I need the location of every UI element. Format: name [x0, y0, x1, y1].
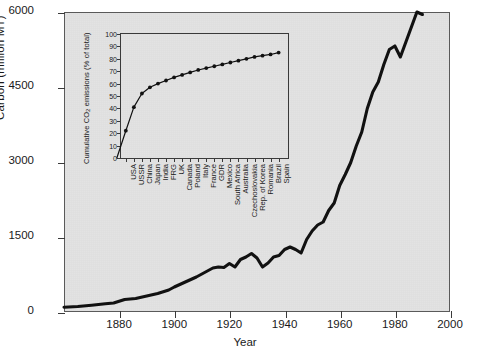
inset-x-tick-mark — [279, 158, 280, 162]
inset-x-tick-mark — [247, 158, 248, 162]
x-tick-mark — [175, 311, 176, 318]
inset-x-tick-mark — [166, 158, 167, 162]
y-tick-label: 6000 — [8, 4, 34, 16]
y-axis-title: Carbon (million MT) — [0, 15, 6, 120]
data-point-marker — [261, 54, 265, 58]
main-plot-area: Cumulative CO2 emissions (% of total) 01… — [64, 12, 450, 312]
inset-y-tick-label: 60 — [109, 80, 117, 87]
inset-y-tick-label: 30 — [109, 117, 117, 124]
inset-y-tick-label: 90 — [109, 43, 117, 50]
inset-plot-area: Cumulative CO2 emissions (% of total) 01… — [120, 33, 289, 159]
x-tick-label: 1940 — [272, 318, 298, 330]
data-point-marker — [188, 71, 192, 75]
data-point-marker — [164, 79, 168, 83]
inset-x-tick-mark — [126, 158, 127, 162]
data-point-marker — [172, 76, 176, 80]
data-point-marker — [148, 85, 152, 89]
inset-y-tick-mark — [117, 158, 121, 159]
inset-x-tick-mark — [214, 158, 215, 162]
data-point-marker — [245, 57, 249, 61]
data-point-marker — [132, 105, 136, 109]
x-tick-label: 1980 — [382, 318, 408, 330]
data-point-marker — [253, 55, 257, 59]
x-tick-label: 1880 — [106, 318, 132, 330]
x-tick-mark — [120, 311, 121, 318]
data-point-marker — [212, 64, 216, 68]
y-tick-label: 0 — [28, 304, 34, 316]
inset-x-tick-mark — [238, 158, 239, 162]
y-tick-mark — [58, 238, 65, 239]
x-tick-mark — [230, 311, 231, 318]
y-tick-label: 4500 — [8, 79, 34, 91]
inset-x-tick-mark — [206, 158, 207, 162]
inset-x-tick-mark — [158, 158, 159, 162]
x-tick-mark — [451, 311, 452, 318]
inset-x-tick-mark — [142, 158, 143, 162]
y-tick-mark — [58, 163, 65, 164]
inset-x-tick-mark — [222, 158, 223, 162]
inset-x-tick-mark — [271, 158, 272, 162]
inset-y-tick-label: 70 — [109, 68, 117, 75]
inset-x-tick-mark — [198, 158, 199, 162]
inset-country-label: Spain — [282, 164, 291, 183]
x-tick-label: 1900 — [162, 318, 188, 330]
y-tick-label: 3000 — [8, 154, 34, 166]
data-point-marker — [204, 66, 208, 70]
data-point-marker — [269, 53, 273, 57]
inset-line-chart — [121, 34, 288, 158]
x-tick-label: 1960 — [327, 318, 353, 330]
x-tick-mark — [341, 311, 342, 318]
inset-y-tick-label: 20 — [109, 130, 117, 137]
data-point-marker — [196, 68, 200, 72]
x-tick-label: 2000 — [437, 318, 463, 330]
inset-y-tick-label: 100 — [105, 31, 117, 38]
inset-y-tick-label: 50 — [109, 93, 117, 100]
y-tick-mark — [58, 13, 65, 14]
x-tick-label: 1920 — [217, 318, 243, 330]
chart-canvas: Carbon (million MT) Cumulative CO2 emiss… — [0, 0, 490, 352]
y-tick-mark — [58, 313, 65, 314]
data-point-marker — [277, 51, 281, 55]
inset-y-tick-label: 80 — [109, 55, 117, 62]
x-tick-mark — [396, 311, 397, 318]
x-axis-title: Year — [0, 336, 490, 348]
data-point-marker — [124, 129, 128, 133]
y-tick-label: 1500 — [8, 229, 34, 241]
x-tick-mark — [286, 311, 287, 318]
data-point-marker — [237, 59, 241, 63]
inset-y-tick-label: 10 — [109, 142, 117, 149]
data-point-marker — [228, 61, 232, 65]
inset-y-tick-label: 40 — [109, 105, 117, 112]
inset-x-tick-mark — [150, 158, 151, 162]
inset-x-tick-mark — [182, 158, 183, 162]
inset-x-tick-mark — [255, 158, 256, 162]
inset-x-tick-mark — [190, 158, 191, 162]
data-point-marker — [180, 73, 184, 77]
data-point-marker — [140, 92, 144, 96]
inset-x-tick-mark — [230, 158, 231, 162]
cumulative-co2-markers — [124, 51, 281, 133]
inset-x-tick-mark — [174, 158, 175, 162]
inset-y-axis-title: Cumulative CO2 emissions (% of total) — [82, 32, 91, 164]
data-point-marker — [156, 82, 160, 86]
inset-x-tick-mark — [263, 158, 264, 162]
inset-subscript: 2 — [85, 108, 91, 111]
inset-x-tick-mark — [134, 158, 135, 162]
y-tick-mark — [58, 88, 65, 89]
data-point-marker — [220, 62, 224, 66]
